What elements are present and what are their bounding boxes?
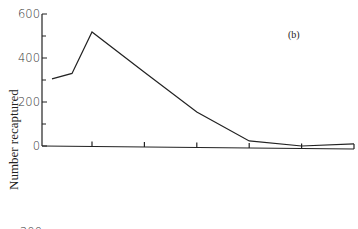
- y-tick-label: 400: [18, 51, 40, 65]
- y-tick-label: 600: [18, 7, 40, 21]
- line-chart: 0200400600 Number recaptured (b) 200: [0, 0, 358, 229]
- panel-label: (b): [288, 29, 300, 41]
- next-panel-tick-label: 200: [20, 225, 42, 229]
- y-axis-label: Number recaptured: [6, 89, 21, 190]
- data-line: [52, 32, 354, 146]
- y-tick-label: 200: [18, 95, 40, 109]
- y-tick-label: 0: [33, 139, 40, 153]
- y-axis: 0200400600: [18, 7, 47, 153]
